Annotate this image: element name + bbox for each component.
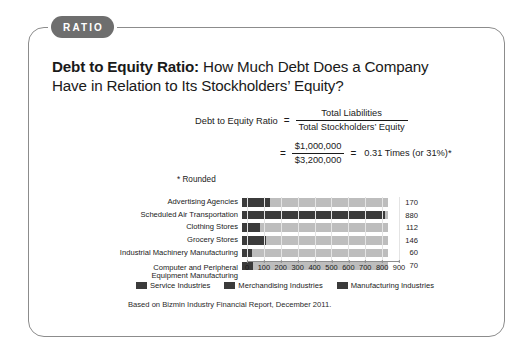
formula-label: Debt to Equity Ratio bbox=[195, 116, 278, 126]
chart-axis-tick-mark bbox=[315, 260, 316, 263]
legend-item: Manufacturing Industries bbox=[337, 281, 434, 290]
chart-bar-track bbox=[242, 223, 388, 232]
formula-fraction-1: Total Liabilities Total Stockholders’ Eq… bbox=[296, 108, 408, 134]
chart-row: Advertising Agencies170 bbox=[118, 197, 418, 208]
chart-axis-tick-label: 300 bbox=[291, 263, 303, 272]
chart-bar bbox=[242, 249, 252, 258]
legend-label: Merchandising Industries bbox=[238, 281, 322, 290]
chart-value-label: 170 bbox=[388, 198, 418, 207]
formula-denominator-1: Total Stockholders’ Equity bbox=[296, 120, 408, 134]
chart-axis-tick-label: 400 bbox=[308, 263, 320, 272]
formula-denominator-2: $3,200,000 bbox=[292, 153, 345, 167]
formula-numerator-1: Total Liabilities bbox=[296, 108, 408, 120]
chart-category-label: Computer and Peripheral Equipment Manufa… bbox=[118, 264, 242, 279]
debt-to-equity-bar-chart: Advertising Agencies170Scheduled Air Tra… bbox=[118, 197, 418, 275]
formula-equals-2: = bbox=[280, 148, 286, 159]
page-title-lead: Debt to Equity Ratio: bbox=[52, 58, 199, 75]
chart-value-label: 146 bbox=[388, 236, 418, 245]
formula-row-computation: = $1,000,000 $3,200,000 = 0.31 Times (or… bbox=[52, 141, 462, 167]
formula-fraction-2: $1,000,000 $3,200,000 bbox=[292, 141, 345, 167]
chart-bar-track bbox=[242, 249, 388, 258]
chart-axis-tick-label: 800 bbox=[376, 263, 388, 272]
chart-axis-tick-mark bbox=[281, 260, 282, 263]
chart-bar bbox=[242, 236, 266, 245]
chart-axis-tick-label: 500 bbox=[325, 263, 337, 272]
legend-swatch bbox=[224, 282, 235, 289]
source-note: Based on Bizmin Industry Financial Repor… bbox=[128, 300, 331, 309]
chart-axis-tick-label: 900 bbox=[393, 263, 405, 272]
chart-bar-track bbox=[242, 211, 388, 220]
chart-value-label: 60 bbox=[388, 248, 418, 257]
chart-axis-tick-mark bbox=[399, 260, 400, 263]
formula-numerator-2: $1,000,000 bbox=[292, 141, 345, 153]
chart-row: Industrial Machinery Manufacturing60 bbox=[118, 247, 418, 258]
chart-legend: Service IndustriesMerchandising Industri… bbox=[136, 281, 434, 290]
chart-row: Grocery Stores146 bbox=[118, 235, 418, 246]
chart-bar-track bbox=[242, 198, 388, 207]
legend-item: Service Industries bbox=[136, 281, 210, 290]
legend-swatch bbox=[337, 282, 348, 289]
chart-axis-line bbox=[247, 261, 400, 262]
formula-equals-1: = bbox=[284, 115, 290, 126]
ratio-badge: RATIO bbox=[51, 16, 114, 38]
chart-axis-tick-label: 600 bbox=[342, 263, 354, 272]
chart-category-label: Advertising Agencies bbox=[118, 198, 242, 206]
chart-axis-tick-label: 100 bbox=[258, 263, 270, 272]
chart-axis-tick-mark bbox=[247, 260, 248, 263]
chart-bar bbox=[242, 198, 270, 207]
chart-axis-tick-mark bbox=[365, 260, 366, 263]
legend-label: Manufacturing Industries bbox=[351, 281, 434, 290]
chart-x-axis: 0100200300400500600700800900 bbox=[247, 263, 399, 274]
rounded-footnote: * Rounded bbox=[177, 175, 216, 184]
chart-axis-tick-mark bbox=[331, 260, 332, 263]
chart-bar bbox=[242, 211, 385, 220]
chart-category-label: Industrial Machinery Manufacturing bbox=[118, 249, 242, 257]
legend-item: Merchandising Industries bbox=[224, 281, 322, 290]
chart-category-label: Grocery Stores bbox=[118, 236, 242, 244]
chart-axis-tick-mark bbox=[348, 260, 349, 263]
chart-bar bbox=[242, 223, 260, 232]
chart-axis-tick-mark bbox=[264, 260, 265, 263]
chart-value-label: 880 bbox=[388, 211, 418, 220]
chart-bar-track bbox=[242, 236, 388, 245]
formula-equals-3: = bbox=[350, 148, 356, 159]
chart-axis-tick-label: 700 bbox=[359, 263, 371, 272]
chart-axis-tick-mark bbox=[382, 260, 383, 263]
chart-category-label: Scheduled Air Transportation bbox=[118, 211, 242, 219]
formula-block: Debt to Equity Ratio = Total Liabilities… bbox=[52, 108, 462, 166]
page-title: Debt to Equity Ratio: How Much Debt Does… bbox=[52, 57, 462, 95]
chart-row: Scheduled Air Transportation880 bbox=[118, 210, 418, 221]
chart-row: Clothing Stores112 bbox=[118, 222, 418, 233]
legend-swatch bbox=[136, 282, 147, 289]
formula-row-definition: Debt to Equity Ratio = Total Liabilities… bbox=[52, 108, 462, 134]
chart-value-label: 112 bbox=[388, 223, 418, 232]
chart-axis-tick-label: 0 bbox=[245, 263, 249, 272]
chart-category-label: Clothing Stores bbox=[118, 223, 242, 231]
chart-axis-tick-label: 200 bbox=[275, 263, 287, 272]
chart-axis-tick-mark bbox=[298, 260, 299, 263]
legend-label: Service Industries bbox=[150, 281, 210, 290]
formula-result: 0.31 Times (or 31%)* bbox=[364, 148, 451, 158]
